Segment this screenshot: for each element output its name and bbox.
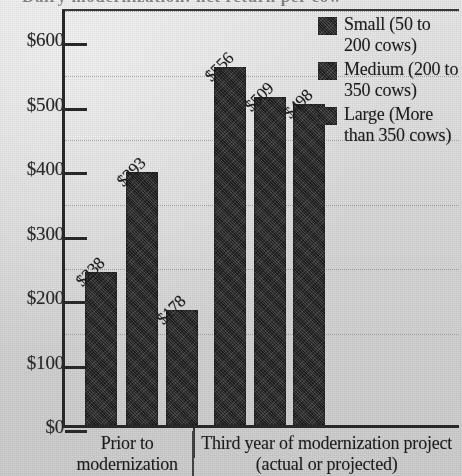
chart-title-cropped: Dairy modernization: net return per cow [0, 0, 462, 7]
y-axis-tick-label: $100 [0, 352, 64, 374]
bar [166, 310, 198, 425]
legend-item: Small (50 to 200 cows) [318, 14, 460, 56]
chart-legend: Small (50 to 200 cows)Medium (200 to 350… [318, 14, 460, 149]
legend-swatch-icon [318, 62, 337, 80]
y-axis-tick-label: $500 [0, 94, 64, 116]
y-axis-tick-label: $400 [0, 158, 64, 180]
legend-item-label: Large (More than 350 cows) [344, 104, 460, 146]
y-axis-tick-label: $300 [0, 223, 64, 245]
y-axis-tick [65, 172, 87, 175]
bar [214, 67, 246, 425]
x-category-prior: Prior to modernization [62, 431, 192, 476]
chart-title-text: Dairy modernization: net return per cow [22, 0, 342, 7]
legend-item: Medium (200 to 350 cows) [318, 59, 460, 101]
y-axis-tick [65, 108, 87, 111]
y-axis-tick-label: $600 [0, 29, 64, 51]
y-axis-tick [65, 366, 87, 369]
y-axis-tick [65, 43, 87, 46]
y-axis-tick [65, 301, 87, 304]
legend-swatch-icon [318, 17, 337, 35]
bar [126, 172, 158, 425]
legend-swatch-icon [318, 107, 337, 125]
y-axis-tick-label: $0 [0, 416, 64, 438]
legend-item-label: Small (50 to 200 cows) [344, 14, 460, 56]
x-axis-category-labels: Prior to modernization Third year of mod… [62, 431, 459, 476]
legend-item-label: Medium (200 to 350 cows) [344, 59, 460, 101]
bar [85, 272, 117, 425]
bar [293, 104, 325, 425]
bar [254, 97, 286, 425]
gridline [65, 11, 459, 13]
y-axis-tick-label: $200 [0, 287, 64, 309]
x-category-third-year: Third year of modernization project (act… [192, 431, 459, 476]
legend-item: Large (More than 350 cows) [318, 104, 460, 146]
y-axis-tick [65, 237, 87, 240]
